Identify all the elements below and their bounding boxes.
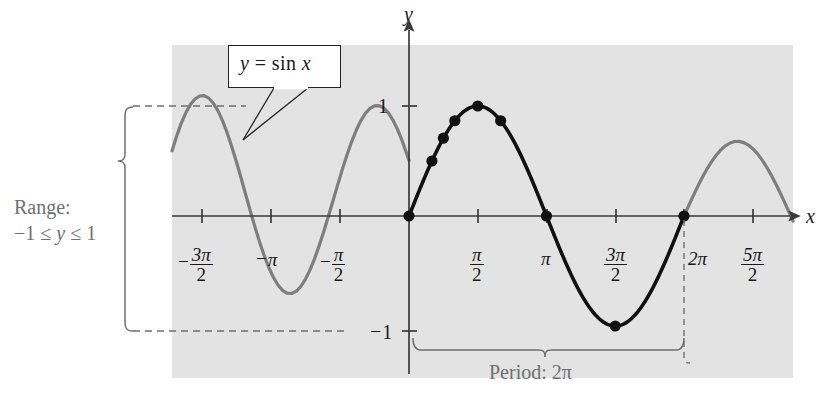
x-tick-label-pi: π — [541, 248, 551, 270]
y-axis-label: y — [404, 3, 413, 26]
marked-point-6 — [426, 155, 437, 166]
range-le-2: ≤ — [70, 222, 81, 244]
y-tick-label-1: 1 — [378, 95, 388, 118]
tick3-den: 2 — [470, 265, 484, 284]
marked-point- — [541, 210, 552, 221]
x-tick-label-2pi: 2π — [688, 248, 707, 270]
callout-equals: = — [255, 52, 267, 74]
tick7-den: 2 — [741, 265, 764, 284]
range-label-line2: −1 ≤ y ≤ 1 — [14, 222, 96, 245]
callout-variable: x — [302, 52, 311, 74]
period-value-text: 2π — [552, 361, 572, 383]
y-tick-label-minus1: −1 — [370, 320, 392, 344]
marked-point-23 — [495, 115, 506, 126]
tick2-num: π — [332, 245, 346, 265]
y-tick-minus1-magnitude: 1 — [382, 321, 392, 343]
callout-pointer-tail — [215, 86, 355, 154]
x-tick-label-neg-pi-over-2: −π2 — [320, 245, 345, 285]
period-label-text: Period: — [489, 361, 547, 383]
tick1-num: π — [268, 249, 278, 270]
x-tick-label-5pi-over-2: 5π2 — [741, 245, 764, 285]
range-le-1: ≤ — [40, 222, 51, 244]
range-label-line1: Range: — [14, 196, 71, 219]
callout-lhs: y — [240, 52, 249, 74]
marked-point-0 — [403, 210, 414, 221]
range-variable: y — [56, 222, 65, 244]
marked-point-2 — [472, 100, 483, 111]
sine-graph-figure: y = sin x y x 1 −1 −3π2 −π −π2 π2 π 3π2 … — [0, 0, 837, 404]
marked-point-2 — [678, 210, 689, 221]
tick3-num: π — [470, 245, 484, 265]
x-tick-label-neg-pi: −π — [256, 248, 277, 271]
x-tick-label-neg-3pi-over-2: −3π2 — [178, 245, 213, 285]
figure-canvas — [0, 0, 837, 404]
x-tick-label-3pi-over-2: 3π2 — [604, 245, 627, 285]
tick0-num: 3π — [190, 245, 213, 265]
range-lower-bound: −1 — [14, 222, 35, 244]
period-label: Period: 2π — [489, 361, 572, 384]
x-axis-label: x — [806, 205, 815, 228]
marked-point-4 — [438, 133, 449, 144]
tick7-num: 5π — [741, 245, 764, 265]
tick0-den: 2 — [190, 265, 213, 284]
x-tick-label-pi-over-2: π2 — [470, 245, 484, 285]
range-brace — [118, 107, 133, 331]
range-upper-bound: 1 — [86, 222, 96, 244]
tick5-num: 3π — [604, 245, 627, 265]
marked-point-32 — [610, 320, 621, 331]
equation-callout-label: y = sin x — [240, 52, 311, 75]
callout-function: sin — [272, 52, 297, 74]
tick2-den: 2 — [332, 265, 346, 284]
marked-point-3 — [449, 115, 460, 126]
tick5-den: 2 — [604, 265, 627, 284]
